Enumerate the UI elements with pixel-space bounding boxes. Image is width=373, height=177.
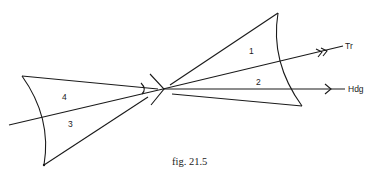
track-label: Tr [345,41,353,51]
left-sector-bottom-edge [44,97,148,165]
region-label-4: 4 [62,92,67,102]
left-sector-vertex [43,164,45,166]
figure-caption: fig. 21.5 [172,156,207,167]
right-sector-bottom-edge [172,94,302,106]
left-sector-top-edge [22,76,158,89]
diagram-canvas: 1 2 3 4 Tr Hdg fig. 21.5 [0,0,373,177]
inbound-arrow-icon [141,83,144,94]
region-label-1: 1 [249,46,254,56]
right-sector [170,13,302,106]
region-label-3: 3 [68,119,73,129]
left-sector-arc [22,76,46,165]
left-sector [22,76,158,166]
right-sector-arc [276,13,302,106]
inbound-track-line [9,89,163,125]
region-label-2: 2 [256,77,261,87]
heading-label: Hdg [348,84,364,94]
track-arrow-icon-1 [316,49,322,57]
